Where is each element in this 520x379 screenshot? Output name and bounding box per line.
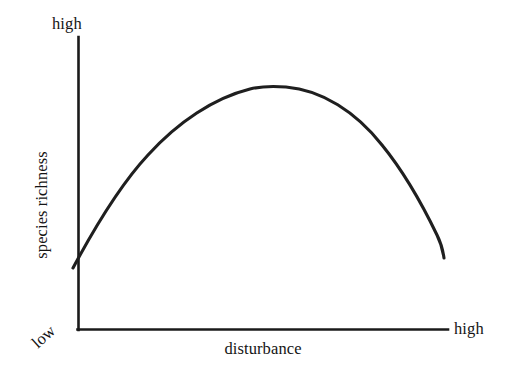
y-axis-title: species richness	[34, 151, 51, 258]
chart-figure: high species richness low disturbance hi…	[0, 0, 520, 379]
y-axis-high-label: high	[52, 16, 82, 33]
species-richness-curve	[73, 86, 444, 268]
plot-area	[0, 0, 520, 379]
x-axis-title: disturbance	[224, 341, 301, 358]
x-axis-high-label: high	[454, 321, 484, 338]
